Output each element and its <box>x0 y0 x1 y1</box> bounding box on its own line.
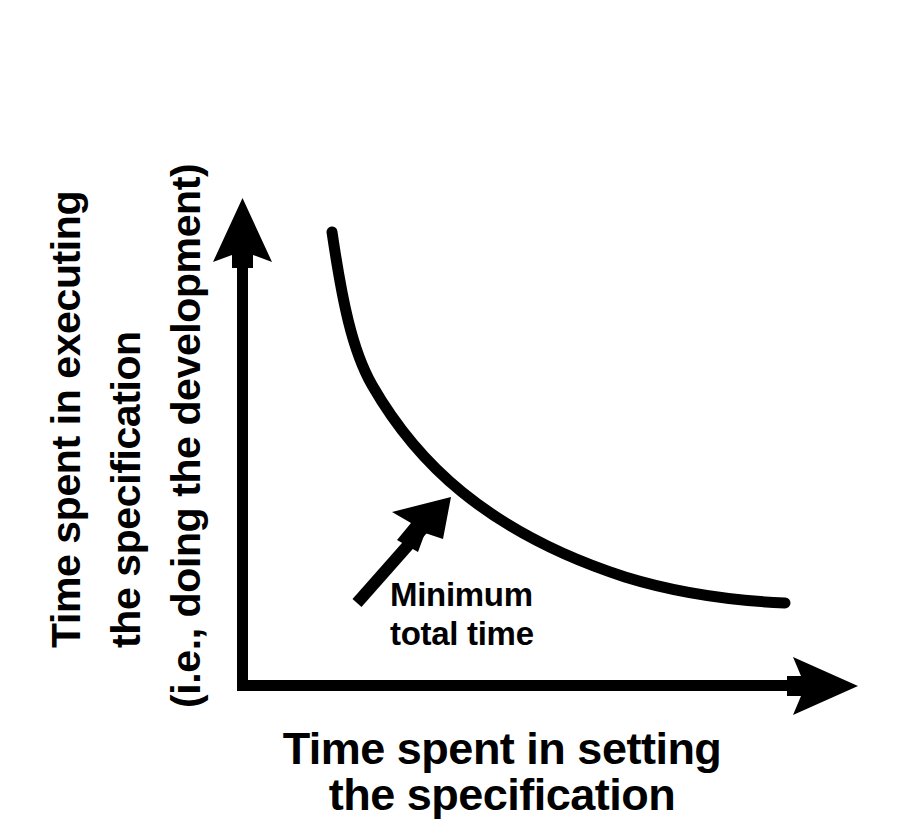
annotation-label-line-1: Minimum <box>390 576 534 615</box>
x-axis-arrow <box>237 657 858 715</box>
x-axis-label: Time spent in setting the specification <box>242 726 762 818</box>
y-axis-label-line-3: (i.e., doing the development) <box>166 164 207 708</box>
figure-canvas: Time spent in executing the specificatio… <box>0 0 901 836</box>
annotation-label: Minimum total time <box>390 576 534 654</box>
y-axis-label: Time spent in executing the specificatio… <box>0 0 232 720</box>
x-axis-label-line-2: the specification <box>242 772 762 818</box>
y-axis-label-line-1: Time spent in executing <box>46 191 87 648</box>
y-axis-label-line-2: the specification <box>106 331 147 648</box>
annotation-label-line-2: total time <box>390 615 534 654</box>
x-axis-label-line-1: Time spent in setting <box>242 726 762 772</box>
